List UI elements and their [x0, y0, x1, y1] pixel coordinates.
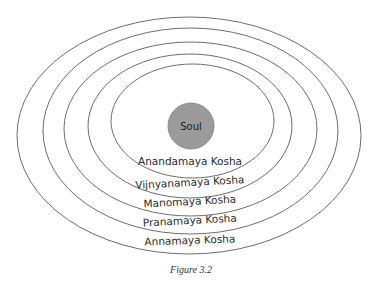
soul-label: Soul [180, 121, 202, 132]
figure-caption: Figure 3.2 [169, 264, 212, 275]
layer-label-anandamaya: Anandamaya Kosha [138, 155, 242, 167]
layer-label-pranamaya: Pranamaya Kosha [143, 212, 237, 229]
layer-label-annamaya: Annamaya Kosha [144, 232, 235, 247]
layer-label-vijnyanamaya: Vijnyanamaya Kosha [135, 173, 245, 191]
layer-label-manomaya: Manomaya Kosha [143, 193, 236, 210]
kosha-diagram: Soul Anandamaya Kosha Vijnyanamaya Kosha… [0, 0, 378, 281]
